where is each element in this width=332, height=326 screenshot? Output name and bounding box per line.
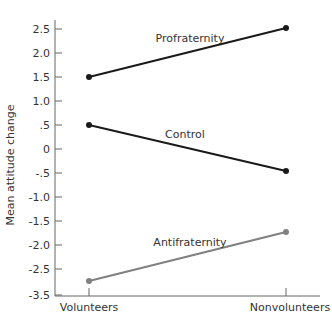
x-label-nonvolunteers: Nonvolunteers — [250, 301, 331, 314]
y-axis-title: Mean attitude change — [4, 104, 17, 225]
y-tick-label: -2.5 — [29, 263, 50, 276]
y-tick-label: -2.0 — [29, 239, 50, 252]
y-tick-label: -1.0 — [29, 191, 50, 204]
y-tick-label: -1.5 — [29, 215, 50, 228]
y-tick-label: -.5 — [36, 167, 50, 180]
label-control: Control — [165, 128, 205, 141]
y-tick-label: .5 — [40, 119, 51, 132]
y-tick-label: -3.5 — [29, 289, 50, 302]
label-profraternity: Profraternity — [156, 32, 225, 45]
y-tick-label: 1.5 — [33, 71, 51, 84]
label-antifraternity: Antifraternity — [153, 236, 227, 249]
y-tick-label: 0 — [43, 143, 50, 156]
y-tick-label: 2.0 — [33, 47, 51, 60]
y-tick-label: 1.0 — [33, 95, 51, 108]
x-label-volunteers: Volunteers — [60, 301, 119, 314]
chart: 2.52.01.51.0.50-.5-1.0-1.5-2.0-2.5-3.5 V… — [0, 0, 332, 326]
y-tick-label: 2.5 — [33, 23, 51, 36]
y-ticks: 2.52.01.51.0.50-.5-1.0-1.5-2.0-2.5-3.5 — [29, 23, 62, 302]
